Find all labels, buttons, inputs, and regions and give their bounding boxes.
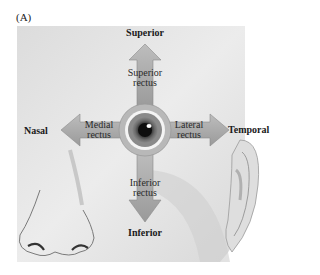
- label-inferior: Inferior: [120, 228, 170, 238]
- label-lateral-rectus: Lateral rectus: [168, 120, 210, 140]
- label-superior-rectus: Superior rectus: [120, 68, 170, 88]
- label-superior: Superior: [120, 28, 170, 38]
- label-medial-rectus: Medial rectus: [78, 120, 120, 140]
- label-inferior-rectus: Inferior rectus: [120, 178, 170, 198]
- label-nasal: Nasal: [24, 126, 60, 136]
- label-temporal: Temporal: [228, 125, 284, 135]
